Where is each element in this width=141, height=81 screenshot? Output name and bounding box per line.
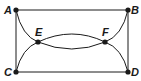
label-f: F <box>102 26 109 38</box>
vertex-b <box>125 7 130 12</box>
vertex-f <box>102 39 107 44</box>
vertices <box>13 7 130 74</box>
vertex-d <box>125 69 130 74</box>
label-d: D <box>131 66 139 78</box>
label-a: A <box>3 4 12 16</box>
arc-a-e-f <box>16 10 105 49</box>
vertex-a <box>13 7 18 12</box>
label-c: C <box>4 66 13 78</box>
label-b: B <box>131 4 139 16</box>
vertex-e <box>35 39 40 44</box>
arc-c-e-f <box>16 34 105 72</box>
edges <box>16 10 128 72</box>
label-e: E <box>35 26 43 38</box>
vertex-c <box>13 69 18 74</box>
graph-diagram: A B C D E F <box>0 0 141 81</box>
arc-f-d <box>105 42 128 72</box>
